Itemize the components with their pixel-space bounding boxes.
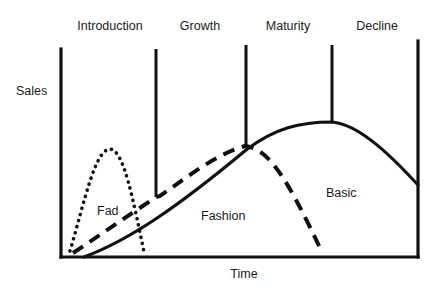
product-life-cycle-diagram: Introduction Growth Maturity Decline Sal… bbox=[0, 0, 432, 292]
curve-label-basic: Basic bbox=[326, 186, 357, 200]
stage-label-decline: Decline bbox=[356, 19, 398, 33]
curve-fad bbox=[70, 149, 144, 252]
stage-dividers bbox=[156, 45, 332, 197]
y-axis-label: Sales bbox=[16, 84, 47, 98]
curve-basic bbox=[84, 122, 418, 257]
stage-label-introduction: Introduction bbox=[77, 19, 142, 33]
curve-label-fad: Fad bbox=[97, 204, 119, 218]
stage-label-growth: Growth bbox=[180, 19, 220, 33]
curve-label-fashion: Fashion bbox=[201, 209, 246, 223]
curve-fashion bbox=[73, 146, 321, 253]
x-axis-label-visible: Time bbox=[230, 267, 257, 281]
stage-label-maturity: Maturity bbox=[266, 19, 311, 33]
